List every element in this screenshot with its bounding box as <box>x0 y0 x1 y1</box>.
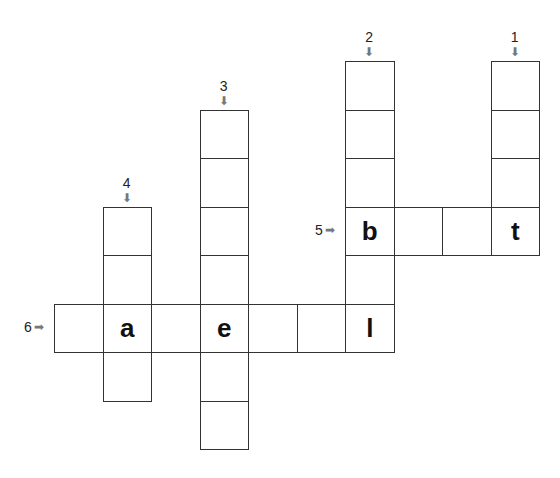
crossword-cell[interactable]: t <box>491 207 541 257</box>
crossword-cell[interactable] <box>442 207 492 257</box>
crossword-cell[interactable] <box>491 110 541 160</box>
crossword-cell[interactable] <box>200 207 250 257</box>
clue-label-6: 6➡ <box>24 319 44 335</box>
crossword-cell[interactable] <box>297 304 347 354</box>
crossword-cell[interactable] <box>200 352 250 402</box>
clue-number-4: 4 <box>117 175 137 191</box>
down-arrow-icon: ⬇ <box>505 47 525 57</box>
crossword-cell[interactable]: e <box>200 304 250 354</box>
crossword-cell[interactable] <box>345 158 395 208</box>
down-arrow-icon: ⬇ <box>359 47 379 57</box>
crossword-cell[interactable]: a <box>103 304 153 354</box>
clue-number-6: 6 <box>24 319 32 335</box>
clue-number-3: 3 <box>214 78 234 94</box>
clue-label-5: 5➡ <box>315 222 335 238</box>
down-arrow-icon: ⬇ <box>214 96 234 106</box>
crossword-cell[interactable] <box>394 207 444 257</box>
right-arrow-icon: ➡ <box>34 320 44 334</box>
crossword-cell[interactable] <box>200 158 250 208</box>
clue-number-2: 2 <box>359 29 379 45</box>
crossword-cell[interactable] <box>491 61 541 111</box>
crossword-cell[interactable] <box>491 158 541 208</box>
crossword-cell[interactable]: b <box>345 207 395 257</box>
crossword-cell[interactable] <box>103 352 153 402</box>
crossword-cell[interactable] <box>200 255 250 305</box>
clue-number-1: 1 <box>505 29 525 45</box>
right-arrow-icon: ➡ <box>325 223 335 237</box>
crossword-cell[interactable]: l <box>345 304 395 354</box>
crossword-cell[interactable] <box>200 110 250 160</box>
crossword-cell[interactable] <box>103 207 153 257</box>
crossword-cell[interactable] <box>151 304 201 354</box>
crossword-cell[interactable] <box>200 401 250 451</box>
crossword-cell[interactable] <box>345 110 395 160</box>
crossword-cell[interactable] <box>345 61 395 111</box>
clue-number-5: 5 <box>315 222 323 238</box>
crossword-cell[interactable] <box>345 255 395 305</box>
crossword-cell[interactable] <box>248 304 298 354</box>
down-arrow-icon: ⬇ <box>117 193 137 203</box>
crossword-cell[interactable] <box>54 304 104 354</box>
crossword-cell[interactable] <box>103 255 153 305</box>
